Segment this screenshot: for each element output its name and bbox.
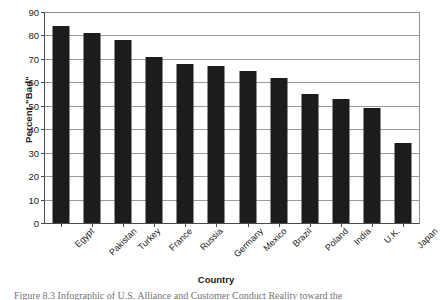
bar-slot xyxy=(232,12,263,223)
bar xyxy=(83,33,100,223)
figure-caption: Figure 8.3 Infographic of U.S. Alliance … xyxy=(14,290,432,300)
bar xyxy=(270,78,287,223)
bar xyxy=(333,99,350,223)
bar xyxy=(114,40,131,223)
bar-slot xyxy=(263,12,294,223)
bar-slot xyxy=(76,12,107,223)
y-axis-tick-label: 0 xyxy=(34,218,39,229)
bar xyxy=(239,71,256,223)
bar-slot xyxy=(357,12,388,223)
bar xyxy=(208,66,225,223)
y-axis-tick-label: 20 xyxy=(28,171,39,182)
x-axis-title: Country xyxy=(0,274,432,285)
x-axis-category-label: Poland xyxy=(323,226,350,253)
bar xyxy=(364,108,381,223)
x-axis-category-label: India xyxy=(352,226,373,247)
bar xyxy=(395,143,412,223)
x-axis-category-label: Russia xyxy=(198,226,225,253)
bar xyxy=(146,57,163,223)
y-axis-tick-label: 80 xyxy=(28,30,39,41)
x-axis-category-label: France xyxy=(167,226,194,253)
bar-slot xyxy=(388,12,419,223)
bar-series xyxy=(45,12,419,223)
y-axis-tick-label: 70 xyxy=(28,53,39,64)
bar xyxy=(52,26,69,223)
y-axis-tick-label: 50 xyxy=(28,100,39,111)
bar xyxy=(301,94,318,223)
y-axis-tick-label: 30 xyxy=(28,147,39,158)
bar-slot xyxy=(139,12,170,223)
y-axis-tick-label: 90 xyxy=(28,7,39,18)
bar-slot xyxy=(294,12,325,223)
y-axis-tick-label: 10 xyxy=(28,194,39,205)
y-axis-tick xyxy=(41,223,45,224)
x-axis-category-label: Pakistan xyxy=(107,226,138,257)
x-axis-category-label: Japan xyxy=(416,226,440,250)
x-axis-category-labels: EgyptPakistanTurkeyFranceRussiaGermanyMe… xyxy=(44,226,420,272)
x-axis-category-label: Mexico xyxy=(261,226,288,253)
x-axis-category-label: Germany xyxy=(232,226,265,259)
bar-slot xyxy=(107,12,138,223)
x-axis-category-label: Turkey xyxy=(136,226,162,252)
x-axis-category-label: Brazil xyxy=(290,226,313,249)
bar-slot xyxy=(326,12,357,223)
bar-slot xyxy=(201,12,232,223)
x-axis-category-label: Egypt xyxy=(72,226,95,249)
x-axis-category-label: U.K. xyxy=(382,226,401,245)
y-axis-tick-label: 60 xyxy=(28,77,39,88)
bar-slot xyxy=(45,12,76,223)
plot-area: 0102030405060708090 xyxy=(44,12,420,224)
y-axis-tick-label: 40 xyxy=(28,124,39,135)
bar-slot xyxy=(170,12,201,223)
bar xyxy=(177,64,194,223)
